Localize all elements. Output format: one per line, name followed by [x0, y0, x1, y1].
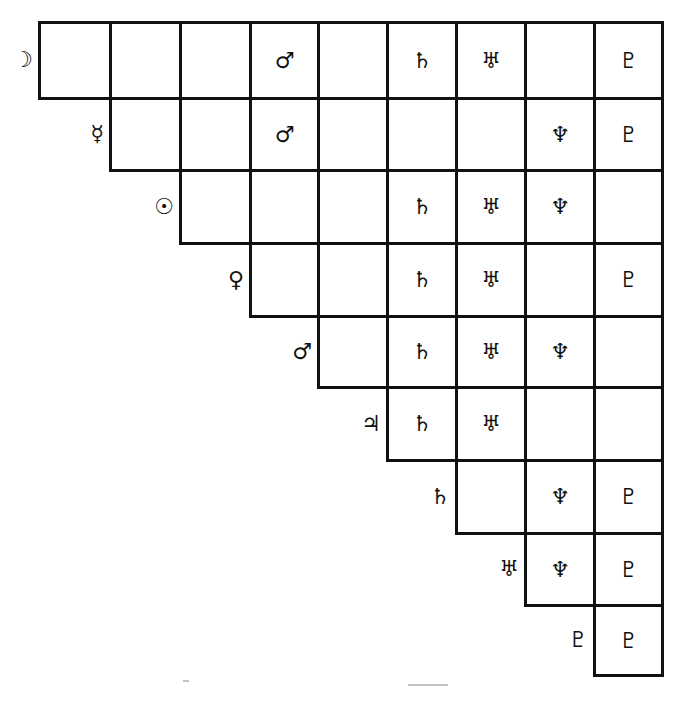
uranus-icon: ♅: [481, 269, 501, 291]
grid-cell-r4-c4: [317, 315, 389, 389]
grid-cell-r2-c4: [317, 169, 389, 245]
grid-cell-r7-c8: ♇: [593, 532, 664, 607]
grid-cell-r1-c6: [455, 97, 527, 172]
uranus-icon: ♅: [481, 196, 501, 218]
row-label-uranus: ♅: [479, 533, 519, 605]
neptune-icon: ♆: [550, 196, 570, 218]
grid-cell-r5-c8: [593, 386, 664, 462]
row-label-venus: ♀: [204, 243, 244, 316]
grid-cell-r8-c8: ♇: [593, 604, 664, 677]
row-label-saturn: ♄: [410, 460, 450, 533]
grid-cell-r1-c5: [386, 97, 458, 172]
grid-cell-r2-c5: ♄: [386, 169, 458, 245]
row-label-mercury: ☿: [64, 98, 104, 170]
saturn-icon: ♄: [412, 269, 432, 291]
pluto-icon: ♇: [619, 559, 639, 581]
uranus-icon: ♅: [481, 341, 501, 363]
grid-cell-r1-c4: [317, 97, 389, 172]
pluto-icon: ♇: [619, 269, 639, 291]
grid-cell-r0-c5: ♄: [386, 21, 458, 100]
neptune-icon: ♆: [550, 486, 570, 508]
saturn-icon: ♄: [412, 196, 432, 218]
grid-cell-r3-c4: [317, 242, 389, 318]
scan-speck: [408, 684, 448, 686]
uranus-icon: ♅: [481, 413, 501, 435]
grid-cell-r2-c6: ♅: [455, 169, 527, 245]
grid-cell-r7-c7: ♆: [524, 532, 596, 607]
grid-cell-r1-c1: [109, 97, 182, 172]
grid-cell-r4-c6: ♅: [455, 315, 527, 389]
grid-cell-r6-c8: ♇: [593, 459, 664, 535]
pluto-icon: ♇: [619, 630, 639, 652]
aspect-grid: ☽♂♄♅♇☿♂♆♇☉♄♅♆♀♄♅♇♂♄♅♆♃♄♅♄♆♇♅♆♇♇♇: [0, 0, 682, 702]
neptune-icon: ♆: [550, 559, 570, 581]
row-label-sun: ☉: [134, 170, 174, 243]
grid-cell-r4-c5: ♄: [386, 315, 458, 389]
grid-cell-r3-c5: ♄: [386, 242, 458, 318]
grid-cell-r3-c3: [249, 242, 320, 318]
grid-cell-r6-c7: ♆: [524, 459, 596, 535]
grid-cell-r1-c7: ♆: [524, 97, 596, 172]
grid-cell-r0-c2: [179, 21, 252, 100]
row-label-jupiter: ♃: [341, 387, 381, 460]
grid-cell-r0-c7: [524, 21, 596, 100]
row-label-mars: ♂: [272, 316, 312, 387]
grid-cell-r0-c3: ♂: [249, 21, 320, 100]
scan-speck: [183, 680, 189, 682]
grid-cell-r1-c2: [179, 97, 252, 172]
row-label-moon: ☽: [0, 22, 33, 98]
grid-cell-r0-c4: [317, 21, 389, 100]
grid-cell-r2-c2: [179, 169, 252, 245]
grid-cell-r6-c6: [455, 459, 527, 535]
saturn-icon: ♄: [412, 50, 432, 72]
saturn-icon: ♄: [412, 341, 432, 363]
grid-cell-r0-c6: ♅: [455, 21, 527, 100]
neptune-icon: ♆: [550, 341, 570, 363]
grid-cell-r5-c5: ♄: [386, 386, 458, 462]
neptune-icon: ♆: [550, 124, 570, 146]
grid-cell-r0-c0: [38, 21, 112, 100]
grid-cell-r4-c7: ♆: [524, 315, 596, 389]
pluto-icon: ♇: [619, 50, 639, 72]
grid-cell-r2-c7: ♆: [524, 169, 596, 245]
grid-cell-r1-c8: ♇: [593, 97, 664, 172]
grid-cell-r4-c8: [593, 315, 664, 389]
pluto-icon: ♇: [619, 124, 639, 146]
uranus-icon: ♅: [481, 50, 501, 72]
grid-cell-r1-c3: ♂: [249, 97, 320, 172]
grid-cell-r2-c8: [593, 169, 664, 245]
saturn-icon: ♄: [412, 413, 432, 435]
mars-icon: ♂: [275, 50, 295, 72]
grid-cell-r0-c8: ♇: [593, 21, 664, 100]
grid-cell-r5-c7: [524, 386, 596, 462]
mars-icon: ♂: [275, 124, 295, 146]
grid-cell-r5-c6: ♅: [455, 386, 527, 462]
grid-cell-r2-c3: [249, 169, 320, 245]
grid-cell-r3-c7: [524, 242, 596, 318]
grid-cell-r0-c1: [109, 21, 182, 100]
grid-cell-r3-c6: ♅: [455, 242, 527, 318]
row-label-pluto: ♇: [548, 605, 588, 675]
grid-cell-r3-c8: ♇: [593, 242, 664, 318]
pluto-icon: ♇: [619, 486, 639, 508]
